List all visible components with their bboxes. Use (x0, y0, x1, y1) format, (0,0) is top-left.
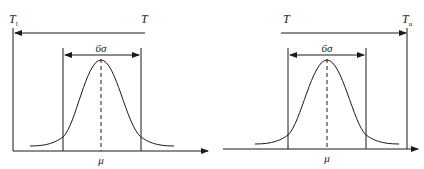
left-diagram: Tl T 6σ μ (9, 12, 208, 166)
process-capability-diagrams: Tl T 6σ μ T Tu (0, 0, 424, 169)
spread-label: 6σ (96, 42, 108, 54)
upper-limit-label: Tu (402, 12, 413, 28)
target-label: T (283, 12, 291, 26)
mean-label: μ (323, 152, 330, 164)
mean-label: μ (97, 154, 104, 166)
normal-curve (30, 60, 174, 146)
lower-limit-label: Tl (9, 12, 18, 28)
right-diagram: T Tu 6σ μ (223, 12, 418, 164)
spread-label: 6σ (322, 42, 334, 54)
target-label: T (141, 12, 149, 26)
